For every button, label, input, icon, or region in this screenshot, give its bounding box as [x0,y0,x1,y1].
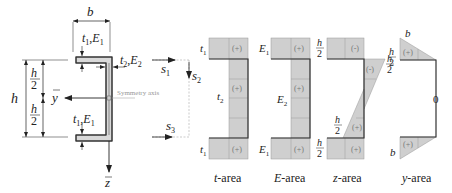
svg-text:(+): (+) [294,84,304,93]
svg-text:(-): (-) [351,44,359,53]
s2-label: s2 [192,68,201,85]
svg-text:2: 2 [31,114,37,128]
half-height-upper: h 2 [30,66,40,92]
svg-text:(+): (+) [351,145,361,154]
svg-text:b: b [390,146,396,158]
width-label: b [87,4,94,19]
svg-text:h: h [335,114,340,125]
z-area-caption: z-area [332,171,362,185]
y-area-diagram: (+) (+) b b h 2 0 y-area [388,27,439,185]
E-area-diagram: (+) (+) (+) E1 E2 E1 E-area [258,38,310,185]
svg-text:h: h [317,137,322,148]
svg-text:(+): (+) [294,145,304,154]
svg-text:0: 0 [433,93,439,105]
svg-text:(+): (+) [352,123,362,132]
s1-label: s1 [161,61,170,78]
channel-profile [76,57,112,141]
cross-section: b t1,E1 t2,E2 t1,E1 h h 2 [11,4,201,190]
t-area-diagram: (+) (+) (+) t1 t2 t1 t-area [200,38,248,185]
y-area-caption: y-area [401,171,432,185]
svg-text:(+): (+) [403,48,413,57]
y-axis-label: y [50,90,58,105]
svg-text:(+): (+) [232,44,242,53]
svg-text:(+): (+) [294,44,304,53]
web-label: t2,E2 [120,53,142,69]
svg-text:(-): (-) [366,65,374,74]
svg-text:E1: E1 [258,42,270,57]
svg-text:(+): (+) [403,140,413,149]
height-label: h [11,91,18,106]
svg-text:(+): (+) [232,84,242,93]
t-area-caption: t-area [214,171,242,185]
svg-text:2: 2 [317,48,322,59]
svg-text:(+): (+) [232,145,242,154]
svg-text:t2: t2 [217,90,224,105]
svg-text:t1: t1 [200,143,207,158]
s3-label: s3 [166,118,175,135]
svg-text:2: 2 [317,148,322,159]
svg-text:2: 2 [31,78,37,92]
svg-text:E1: E1 [258,143,270,158]
svg-text:h: h [389,46,394,57]
svg-text:2: 2 [335,125,340,136]
svg-text:2: 2 [389,57,394,68]
svg-text:E2: E2 [276,93,288,108]
flange-bottom-label: t1,E1 [73,112,95,128]
svg-text:b: b [405,27,411,39]
svg-text:t1: t1 [200,42,207,57]
svg-text:h: h [317,37,322,48]
symmetry-axis-label: Symmetry axis [117,89,159,97]
diagram-canvas: b t1,E1 t2,E2 t1,E1 h h 2 [0,0,452,193]
E-area-caption: E-area [273,171,306,185]
half-height-lower: h 2 [30,102,40,128]
z-area-diagram: (-) (-) (+) (+) h 2 h 2 h 2 h 2 z-area [316,37,394,185]
flange-top-label: t1,E1 [82,31,104,47]
